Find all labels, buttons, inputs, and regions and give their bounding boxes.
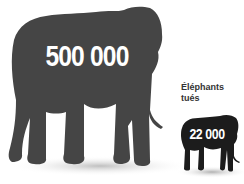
- series-label-line2: tués: [181, 93, 241, 104]
- series-label-line1: Éléphants: [181, 82, 241, 93]
- big-elephant-value-label: 500 000: [35, 38, 138, 74]
- small-elephant-value-label: 22 000: [183, 125, 231, 143]
- series-label: Éléphants tués: [181, 82, 241, 104]
- big-elephant-icon: [9, 7, 163, 166]
- elephant-pictogram-chart: 500 000 22 000 Éléphants tués: [0, 0, 244, 184]
- small-elephant-icon: [181, 115, 240, 172]
